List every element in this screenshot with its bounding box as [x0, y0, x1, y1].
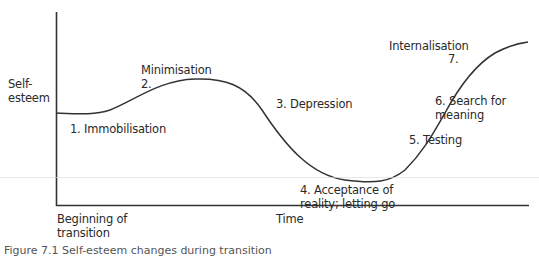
x-axis-start-line1: Beginning of — [57, 212, 127, 226]
stage-4-line2: reality; letting go — [300, 197, 395, 211]
stage-2-number: 2. — [141, 77, 212, 91]
stage-2-label: Minimisation 2. — [141, 63, 212, 91]
y-axis-label-line1: Self- — [8, 77, 50, 91]
x-axis-start-label: Beginning of transition — [57, 212, 127, 240]
stage-6-line2: meaning — [435, 108, 506, 122]
figure-caption: Figure 7.1 Self-esteem changes during tr… — [4, 244, 272, 257]
stage-3-label: 3. Depression — [276, 97, 352, 111]
stage-4-line1: 4. Acceptance of — [300, 183, 395, 197]
stage-2-name: Minimisation — [141, 63, 212, 77]
stage-5-label: 5. Testing — [409, 133, 462, 147]
x-axis-label: Time — [276, 212, 303, 226]
x-axis-start-line2: transition — [57, 226, 127, 240]
stage-6-line1: 6. Search for — [435, 94, 506, 108]
stage-1-label: 1. Immobilisation — [70, 122, 166, 136]
stage-6-label: 6. Search for meaning — [435, 94, 506, 122]
stage-7-number: 7. — [448, 52, 459, 66]
stage-7-label: Internalisation — [389, 39, 469, 53]
y-axis-label-line2: esteem — [8, 91, 50, 105]
scan-artifact — [0, 177, 539, 178]
y-axis-label: Self- esteem — [8, 77, 50, 105]
stage-4-label: 4. Acceptance of reality; letting go — [300, 183, 395, 211]
